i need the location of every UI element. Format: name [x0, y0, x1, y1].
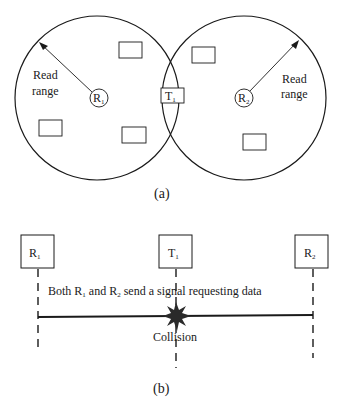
rfid-collision-diagram: R1 Read range R2 Read range T1 (a) R1 T1… — [0, 0, 349, 412]
tag — [39, 120, 62, 136]
collision-label: Collision — [153, 330, 197, 344]
reader1-range-label-line2: range — [32, 84, 59, 98]
reader2-arrowhead-icon — [291, 40, 299, 49]
participant-r1-box — [21, 235, 54, 268]
tag — [243, 134, 266, 150]
tag — [119, 42, 142, 58]
collision-burst-icon — [163, 302, 191, 331]
figure-b-caption: (b) — [153, 381, 170, 397]
figure-a-caption: (a) — [154, 186, 170, 202]
tag — [192, 47, 215, 63]
participant-t1-box — [159, 235, 192, 268]
reader2-range-label-line1: Read — [282, 72, 307, 86]
reader2-range-label-line2: range — [281, 87, 308, 101]
message-text: Both R1 and R2 send a signal requesting … — [48, 284, 262, 299]
figure-b: R1 T1 R2 Both R1 and R2 send a signal re… — [21, 235, 328, 397]
tag — [122, 127, 146, 143]
reader1-range-label-line1: Read — [33, 68, 58, 82]
figure-a: R1 Read range R2 Read range T1 (a) — [15, 16, 326, 202]
